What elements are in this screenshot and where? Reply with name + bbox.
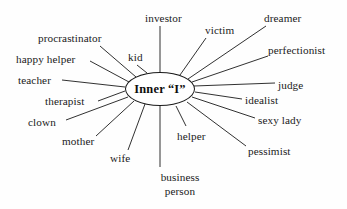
spoke-line-wife [128,104,145,150]
node-label-teacher[interactable]: teacher [18,74,51,87]
spoke-line-helper [176,106,186,126]
node-label-business-person-line-1: business [136,171,224,185]
node-label-kid[interactable]: kid [128,51,143,64]
spoke-line-idealist [195,92,242,99]
node-label-dreamer[interactable]: dreamer [264,12,301,25]
node-label-helper[interactable]: helper [177,130,206,143]
node-label-sexy-lady[interactable]: sexy lady [258,114,301,127]
node-label-idealist[interactable]: idealist [245,94,278,107]
node-label-business-person-line-2: person [136,185,224,199]
node-label-pessimist[interactable]: pessimist [248,145,291,158]
node-label-investor[interactable]: investor [145,12,182,25]
node-label-business-person[interactable]: businessperson [136,171,224,198]
node-label-therapist[interactable]: therapist [45,95,84,108]
node-label-procrastinator[interactable]: procrastinator [38,32,102,45]
node-label-judge[interactable]: judge [278,79,303,92]
node-label-mother[interactable]: mother [62,135,94,148]
spoke-line-judge [194,83,275,86]
node-label-happy-helper[interactable]: happy helper [16,53,75,66]
diagram-canvas: Inner “I” investorvictimdreamerperfectio… [0,0,347,209]
node-label-victim[interactable]: victim [205,24,234,37]
node-label-clown[interactable]: clown [28,116,56,129]
center-node-label: Inner “I” [125,72,195,106]
spoke-line-mother [96,101,134,136]
spoke-line-happy-helper [90,61,129,82]
spoke-line-teacher [62,80,125,87]
node-label-wife[interactable]: wife [110,152,130,165]
node-label-perfectionist[interactable]: perfectionist [268,44,325,57]
